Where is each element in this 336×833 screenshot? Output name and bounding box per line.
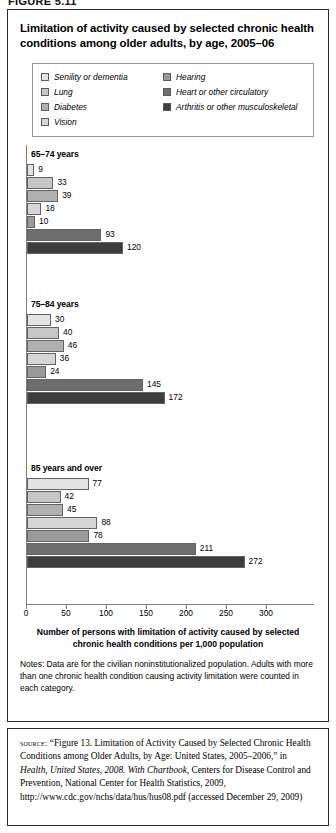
plot-inner: 65–74 years9333918109312075–84 years3040…: [26, 145, 314, 627]
chart-notes: Notes: Data are for the civilian noninst…: [20, 659, 316, 694]
bar-vision: [27, 203, 41, 215]
bar-group-label: 65–74 years: [31, 149, 314, 159]
bar-row: 10: [26, 215, 314, 228]
bar-arthritis-or-other-musculoskeletal: [27, 556, 245, 568]
bar-row: 88: [26, 516, 314, 529]
bar-lung: [27, 491, 61, 503]
bar-row: 33: [26, 176, 314, 189]
bar-row: 24: [26, 365, 314, 378]
bar-row: 120: [26, 241, 314, 254]
legend-item-arthritis-or-other-musculoskeletal: Arthritis or other musculoskeletal: [163, 100, 307, 114]
source-text: source: “Figure 13. Limitation of Activi…: [20, 737, 316, 804]
legend-label: Diabetes: [54, 103, 87, 111]
bar-heart-or-other-circulatory: [27, 543, 196, 555]
legend-column-left: Senility or dementia Lung Diabetes Visio…: [41, 70, 163, 130]
bar-row: 211: [26, 542, 314, 555]
legend-swatch-icon: [41, 88, 49, 96]
bar-value-label: 46: [68, 341, 77, 349]
bar-value-label: 272: [249, 557, 263, 565]
x-tick-label: 250: [219, 607, 233, 619]
bar-row: 145: [26, 378, 314, 391]
legend-swatch-icon: [163, 103, 171, 111]
legend-swatch-icon: [163, 73, 171, 81]
bar-lung: [27, 327, 59, 339]
bar-row: 77: [26, 477, 314, 490]
bar-value-label: 10: [39, 217, 48, 225]
legend-label: Arthritis or other musculoskeletal: [176, 103, 297, 111]
bar-diabetes: [27, 190, 58, 202]
bar-list: 3040463624145172: [26, 313, 314, 404]
bar-arthritis-or-other-musculoskeletal: [27, 242, 123, 254]
bar-group-label: 75–84 years: [31, 299, 314, 309]
bar-value-label: 45: [67, 505, 76, 513]
bar-vision: [27, 353, 56, 365]
bar-value-label: 42: [65, 492, 74, 500]
x-axis-caption: Number of persons with limitation of act…: [24, 627, 312, 650]
bar-vision: [27, 517, 97, 529]
legend-item-senility-or-dementia: Senility or dementia: [41, 70, 163, 84]
bar-value-label: 120: [127, 243, 141, 251]
bar-value-label: 77: [93, 479, 102, 487]
bar-group-75-84-years: 75–84 years3040463624145172: [26, 299, 314, 404]
bar-value-label: 24: [50, 367, 59, 375]
x-tick-label: 200: [179, 607, 193, 619]
bar-value-label: 145: [147, 380, 161, 388]
legend-item-diabetes: Diabetes: [41, 100, 163, 114]
source-part-one: “Figure 13. Limitation of Activity Cause…: [20, 738, 311, 761]
bar-group-label: 85 years and over: [31, 463, 314, 473]
bar-row: 93: [26, 228, 314, 241]
x-tick-label: 300: [259, 607, 273, 619]
bar-hearing: [27, 530, 89, 542]
source-box: source: “Figure 13. Limitation of Activi…: [7, 728, 329, 826]
legend-swatch-icon: [41, 73, 49, 81]
bar-value-label: 30: [55, 315, 64, 323]
figure-number: FIGURE 5.11: [8, 0, 77, 7]
bar-senility-or-dementia: [27, 478, 89, 490]
bar-row: 172: [26, 391, 314, 404]
bar-value-label: 172: [169, 393, 183, 401]
bar-value-label: 78: [93, 531, 102, 539]
legend-label: Senility or dementia: [54, 73, 128, 81]
bar-row: 272: [26, 555, 314, 568]
bar-row: 18: [26, 202, 314, 215]
bar-hearing: [27, 366, 46, 378]
bar-senility-or-dementia: [27, 314, 51, 326]
bar-hearing: [27, 216, 35, 228]
x-axis-line: [26, 604, 314, 605]
figure-box: Limitation of activity caused by selecte…: [7, 9, 329, 722]
source-italic-title: Health, United States, 2008. With Chartb…: [20, 765, 187, 775]
bar-row: 36: [26, 352, 314, 365]
figure-page: FIGURE 5.11 Limitation of activity cause…: [0, 0, 336, 833]
legend-item-hearing: Hearing: [163, 70, 307, 84]
legend-label: Heart or other circulatory: [176, 88, 268, 96]
bar-row: 46: [26, 339, 314, 352]
chart-legend: Senility or dementia Lung Diabetes Visio…: [32, 63, 314, 137]
bar-list: 7742458878211272: [26, 477, 314, 568]
bar-value-label: 211: [200, 544, 213, 552]
source-kicker: source:: [20, 738, 47, 748]
bar-group-65-74-years: 65–74 years93339181093120: [26, 149, 314, 254]
bar-row: 45: [26, 503, 314, 516]
bar-group-85-years-and-over: 85 years and over7742458878211272: [26, 463, 314, 568]
bar-row: 39: [26, 189, 314, 202]
legend-label: Lung: [54, 88, 73, 96]
bar-value-label: 9: [38, 165, 43, 173]
bar-senility-or-dementia: [27, 164, 34, 176]
legend-swatch-icon: [163, 88, 171, 96]
legend-item-lung: Lung: [41, 85, 163, 99]
legend-label: Vision: [54, 118, 77, 126]
legend-label: Hearing: [176, 73, 205, 81]
legend-column-right: Hearing Heart or other circulatory Arthr…: [163, 70, 307, 130]
bar-value-label: 39: [62, 191, 71, 199]
bar-list: 93339181093120: [26, 163, 314, 254]
bar-value-label: 18: [45, 204, 54, 212]
chart-title: Limitation of activity caused by selecte…: [20, 21, 316, 51]
bar-value-label: 36: [60, 354, 69, 362]
plot-area: 65–74 years9333918109312075–84 years3040…: [8, 145, 328, 627]
bar-diabetes: [27, 504, 63, 516]
x-tick-label: 50: [61, 607, 70, 619]
bar-row: 42: [26, 490, 314, 503]
legend-item-vision: Vision: [41, 115, 163, 129]
bar-value-label: 33: [57, 178, 66, 186]
x-tick-label: 150: [139, 607, 153, 619]
